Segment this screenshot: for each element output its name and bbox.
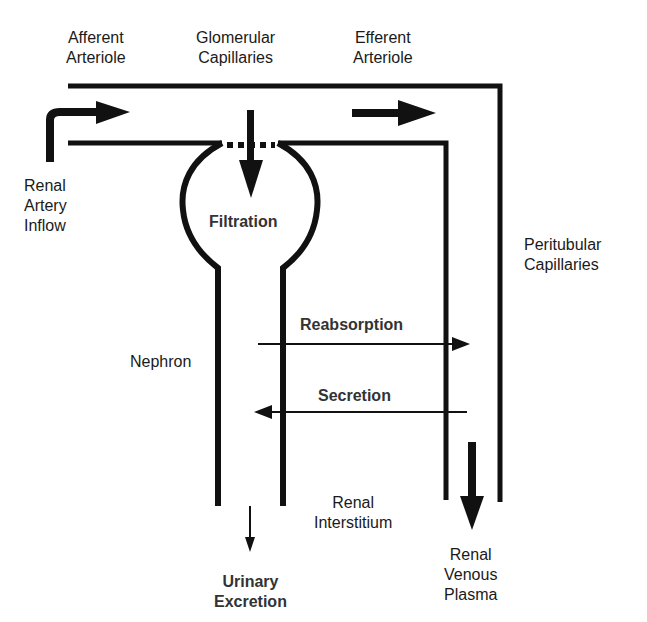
- label-filtration: Filtration: [209, 212, 277, 232]
- label-glomerular-capillaries: Glomerular Capillaries: [196, 28, 275, 68]
- reabsorption-arrow: [258, 337, 470, 351]
- label-secretion: Secretion: [318, 386, 391, 406]
- renal-venous-arrow: [460, 442, 484, 530]
- label-reabsorption: Reabsorption: [300, 315, 403, 335]
- label-renal-interstitium: Renal Interstitium: [314, 493, 392, 533]
- bowmans-capsule: [182, 143, 222, 506]
- label-nephron: Nephron: [130, 352, 191, 372]
- label-afferent-arteriole: Afferent Arteriole: [66, 28, 126, 68]
- urinary-excretion-arrow: [245, 506, 255, 552]
- label-renal-venous-plasma: Renal Venous Plasma: [444, 545, 497, 605]
- renal-artery-inflow-arrow: [50, 101, 130, 162]
- label-urinary-excretion: Urinary Excretion: [214, 572, 287, 612]
- label-peritubular-capillaries: Peritubular Capillaries: [524, 235, 601, 275]
- efferent-flow-arrow: [352, 100, 436, 126]
- label-efferent-arteriole: Efferent Arteriole: [353, 28, 413, 68]
- label-renal-artery-inflow: Renal Artery Inflow: [24, 176, 67, 236]
- filtration-arrow: [239, 110, 263, 198]
